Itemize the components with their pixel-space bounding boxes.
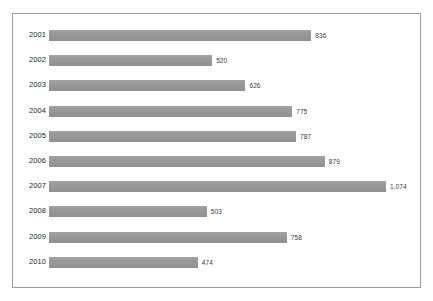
bar-value-label: 520 xyxy=(216,55,227,66)
bar-value-label: 626 xyxy=(249,80,260,91)
bar-rect xyxy=(49,131,296,142)
bar-rect xyxy=(49,181,386,192)
bar-category-label: 2004 xyxy=(13,105,46,116)
plot-area: 2001836200252020036262004775200578720068… xyxy=(13,14,420,287)
bar-rect xyxy=(49,257,198,268)
bar-value-label: 879 xyxy=(329,156,340,167)
bar-category-label: 2009 xyxy=(13,231,46,242)
bar-rect xyxy=(49,232,287,243)
bar-category-label: 2002 xyxy=(13,54,46,65)
bar-rect xyxy=(49,156,325,167)
bar-category-label: 2006 xyxy=(13,155,46,166)
bar-value-label: 503 xyxy=(211,206,222,217)
bar-rect xyxy=(49,106,292,117)
bar-value-label: 758 xyxy=(291,232,302,243)
bar-value-label: 474 xyxy=(202,257,213,268)
bar-category-label: 2005 xyxy=(13,130,46,141)
bar-category-label: 2003 xyxy=(13,79,46,90)
bar-rect xyxy=(49,206,207,217)
bar-row: 2005787 xyxy=(13,131,420,142)
bar-row: 20071.074 xyxy=(13,181,420,192)
bar-category-label: 2001 xyxy=(13,29,46,40)
bar-rect xyxy=(49,55,212,66)
bar-value-label: 787 xyxy=(300,131,311,142)
bar-category-label: 2007 xyxy=(13,180,46,191)
bar-rect xyxy=(49,80,245,91)
bar-category-label: 2010 xyxy=(13,256,46,267)
bar-value-label: 836 xyxy=(315,30,326,41)
bar-category-label: 2008 xyxy=(13,205,46,216)
bar-row: 2004775 xyxy=(13,106,420,117)
bar-row: 2010474 xyxy=(13,257,420,268)
chart-frame: 2001836200252020036262004775200578720068… xyxy=(12,13,421,288)
bar-value-label: 775 xyxy=(296,106,307,117)
bar-row: 2001836 xyxy=(13,30,420,41)
bar-row: 2008503 xyxy=(13,206,420,217)
bar-row: 2002520 xyxy=(13,55,420,66)
bar-chart-figure: 2001836200252020036262004775200578720068… xyxy=(0,0,433,301)
bar-row: 2009758 xyxy=(13,232,420,243)
bar-row: 2003626 xyxy=(13,80,420,91)
bar-row: 2006879 xyxy=(13,156,420,167)
bar-value-label: 1.074 xyxy=(390,181,407,192)
bar-rect xyxy=(49,30,311,41)
